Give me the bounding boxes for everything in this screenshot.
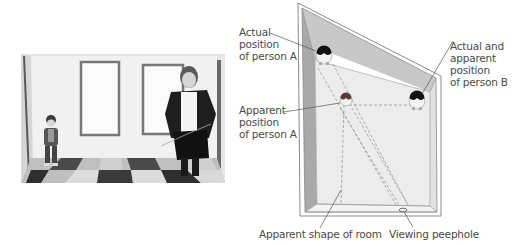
label-apparent-position-a: Apparent position of person A [239, 104, 297, 140]
person-a-actual-icon [316, 46, 332, 65]
label-actual-position-a: Actual position of person A [239, 26, 297, 62]
label-viewing-peephole: Viewing peephole [389, 228, 479, 240]
label-apparent-room-shape: Apparent shape of room [259, 228, 382, 240]
person-a-apparent-icon [340, 93, 352, 107]
label-position-b: Actual and apparent position of person B [450, 40, 508, 88]
peephole-icon [399, 208, 407, 212]
